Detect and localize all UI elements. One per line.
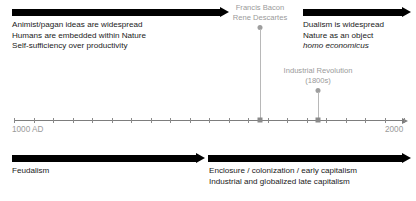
bar-shaft [303,9,402,16]
bar-shaft [12,155,196,162]
axis-marker-philosophers [258,118,263,123]
axis-tick [170,118,171,123]
axis-tick [346,118,347,123]
premodern-worldview-bar [12,9,229,16]
axis-marker-industrial-revolution [316,118,321,123]
axis-tick [14,118,15,123]
axis-tick [190,118,191,123]
axis-tick [209,118,210,123]
axis-tick [112,118,113,123]
axis-tick [151,118,152,123]
feudalism-bar [12,155,205,162]
axis-tick [248,118,249,123]
axis-tick [229,118,230,123]
industrial-line-1: Industrial Revolution [284,66,353,76]
bar-arrowhead [220,7,229,17]
bar-shaft [208,155,402,162]
modern-line-2: Nature as an object [303,31,384,42]
premodern-line-2: Humans are embedded within Nature [12,31,146,42]
bar-arrowhead [402,7,411,17]
event-connector-philosophers [260,29,261,120]
axis-tick [73,118,74,123]
capitalism-line-2: Industrial and globalized late capitalis… [209,177,357,188]
premodern-line-1: Animist/pagan ideas are widespread [12,20,146,31]
axis-tick [326,118,327,123]
capitalism-text: Enclosure / colonization / early capital… [209,166,357,187]
axis-tick [131,118,132,123]
event-label-philosophers: Francis Bacon Rene Descartes [233,3,287,23]
axis-tick [365,118,366,123]
capitalism-bar [208,155,411,162]
axis-tick [404,118,405,123]
axis-tick [287,118,288,123]
axis-tick [307,118,308,123]
premodern-line-3: Self-sufficiency over productivity [12,41,146,52]
bar-arrowhead [402,153,411,163]
axis-tick [92,118,93,123]
industrial-line-2: (1800s) [284,76,353,86]
modern-worldview-bar [303,9,411,16]
axis-tick [268,118,269,123]
axis-tick [53,118,54,123]
axis-tick [385,118,386,123]
axis-start-year-label: 1000 AD [12,125,43,134]
premodern-worldview-text: Animist/pagan ideas are widespread Human… [12,20,146,52]
philosophers-line-2: Rene Descartes [233,13,287,23]
event-connector-industrial-revolution [318,92,319,120]
philosophers-line-1: Francis Bacon [233,3,287,13]
modern-line-italic: homo economicus [303,41,384,52]
timeline-axis-arrowhead [402,118,408,124]
modern-worldview-text: Dualism is widespread Nature as an objec… [303,20,384,52]
feudalism-text: Feudalism [12,166,49,177]
timeline-diagram: Animist/pagan ideas are widespread Human… [0,0,416,201]
capitalism-line-1: Enclosure / colonization / early capital… [209,166,357,177]
axis-end-year-label: 2000 [385,125,403,134]
event-label-industrial-revolution: Industrial Revolution (1800s) [284,66,353,86]
feudalism-line-1: Feudalism [12,166,49,177]
modern-line-1: Dualism is widespread [303,20,384,31]
bar-arrowhead [196,153,205,163]
axis-tick [34,118,35,123]
bar-shaft [12,9,220,16]
